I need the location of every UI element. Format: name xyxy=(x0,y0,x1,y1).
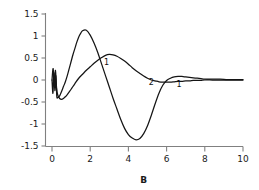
curve-annotations: 121 xyxy=(104,58,182,89)
x-tick-label: 10 xyxy=(237,154,249,164)
y-tick-label: 1.5 xyxy=(24,9,38,19)
series-line-2 xyxy=(52,54,243,99)
curve-label-1: 1 xyxy=(104,58,109,67)
x-tick-label: 6 xyxy=(164,154,170,164)
x-tick-label: 0 xyxy=(49,154,55,164)
curve-label-1: 1 xyxy=(176,80,181,89)
x-tick-label: 8 xyxy=(202,154,208,164)
x-axis-title: B xyxy=(140,175,147,185)
x-tick-label: 2 xyxy=(87,154,93,164)
y-tick-label: 1 xyxy=(33,31,39,41)
x-tick-label: 4 xyxy=(126,154,132,164)
series-line-1 xyxy=(52,30,243,140)
x-axis-ticks: 0246810 xyxy=(49,147,249,165)
y-tick-label: -1.5 xyxy=(21,141,39,151)
y-tick-label: -1 xyxy=(30,119,39,129)
y-tick-label: 0.5 xyxy=(24,53,38,63)
curve-label-2: 2 xyxy=(149,78,154,87)
chart-plot: 1.510.50-0.5-1-1.5 0246810 121 B xyxy=(0,0,259,190)
y-axis-ticks: 1.510.50-0.5-1-1.5 xyxy=(21,9,46,151)
y-tick-label: 0 xyxy=(33,75,39,85)
chart-container: 1.510.50-0.5-1-1.5 0246810 121 B xyxy=(0,0,259,190)
y-tick-label: -0.5 xyxy=(21,97,39,107)
chart-series-paths xyxy=(52,30,243,140)
